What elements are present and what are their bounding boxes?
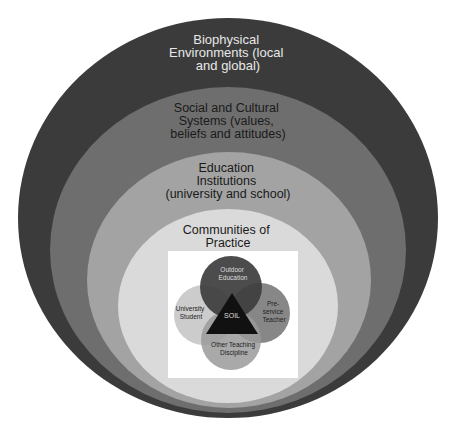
label-outdoor-education: Outdoor Education <box>219 266 248 281</box>
label-soil: SOIL <box>224 312 240 319</box>
label-university-student: University Student <box>176 305 206 320</box>
nested-contexts-diagram: Biophysical Environments (local and glob… <box>0 0 457 433</box>
label-social-cultural: Social and Cultural Systems (values, bel… <box>170 101 285 141</box>
